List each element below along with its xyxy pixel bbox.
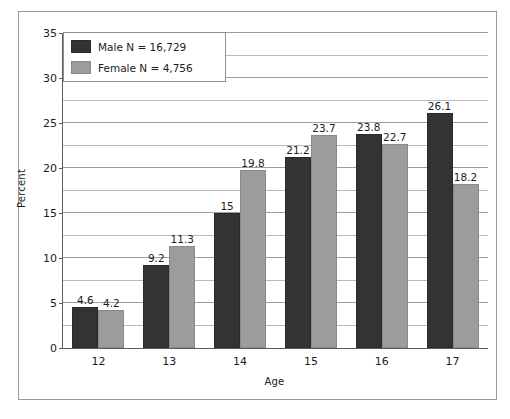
x-axis-tick-label: 16 <box>375 355 389 368</box>
legend-label-female: Female N = 4,756 <box>98 62 193 74</box>
bar[interactable]: 15 <box>214 213 240 348</box>
x-axis-title: Age <box>62 376 487 387</box>
bar-value-label: 26.1 <box>428 100 451 112</box>
bar[interactable]: 9.2 <box>143 265 169 348</box>
bar[interactable]: 23.7 <box>311 135 337 348</box>
legend-swatch-male-icon <box>71 40 91 53</box>
bar-group: 23.822.716 <box>346 33 417 348</box>
x-axis-tick-label: 14 <box>233 355 247 368</box>
chart-figure: Percent 05101520253035 4.64.2129.211.313… <box>0 0 510 419</box>
bar-group: 26.118.217 <box>417 33 488 348</box>
bar-value-label: 21.2 <box>286 144 309 156</box>
bar[interactable]: 19.8 <box>240 170 266 348</box>
y-axis-tick-label: 0 <box>50 342 57 355</box>
bar-value-label: 22.7 <box>383 131 406 143</box>
bar[interactable]: 4.6 <box>72 307 98 348</box>
bar-value-label: 11.3 <box>171 233 194 245</box>
x-axis-tick-label: 13 <box>162 355 176 368</box>
y-axis-tick-label: 25 <box>43 117 57 130</box>
bar[interactable]: 21.2 <box>285 157 311 348</box>
chart-legend: Male N = 16,729 Female N = 4,756 <box>63 32 226 82</box>
bar-value-label: 23.8 <box>357 121 380 133</box>
x-axis-tick-label: 17 <box>446 355 460 368</box>
bar[interactable]: 23.8 <box>356 134 382 348</box>
bar-value-label: 23.7 <box>312 122 335 134</box>
bar-value-label: 19.8 <box>241 157 264 169</box>
bar-value-label: 15 <box>220 200 233 212</box>
y-axis-tick-label: 20 <box>43 162 57 175</box>
bar-group: 21.223.715 <box>276 33 347 348</box>
bar[interactable]: 26.1 <box>427 113 453 348</box>
legend-swatch-female-icon <box>71 61 91 74</box>
y-axis-tick-label: 15 <box>43 207 57 220</box>
bar[interactable]: 22.7 <box>382 144 408 348</box>
bar[interactable]: 18.2 <box>453 184 479 348</box>
bar-value-label: 4.6 <box>77 294 94 306</box>
bar-value-label: 9.2 <box>148 252 165 264</box>
x-axis-tick-label: 12 <box>91 355 105 368</box>
y-axis-tick-label: 5 <box>50 297 57 310</box>
y-axis-title: Percent <box>16 159 27 219</box>
y-axis-tick-label: 30 <box>43 72 57 85</box>
y-axis-tick-mark <box>59 348 63 349</box>
bar-value-label: 4.2 <box>103 297 120 309</box>
legend-item-female: Female N = 4,756 <box>64 57 225 78</box>
bar-value-label: 18.2 <box>454 171 477 183</box>
y-axis-tick-label: 10 <box>43 252 57 265</box>
legend-item-male: Male N = 16,729 <box>64 36 225 57</box>
legend-label-male: Male N = 16,729 <box>98 41 186 53</box>
x-axis-tick-label: 15 <box>304 355 318 368</box>
bar[interactable]: 11.3 <box>169 246 195 348</box>
bar[interactable]: 4.2 <box>98 310 124 348</box>
y-axis-tick-label: 35 <box>43 27 57 40</box>
